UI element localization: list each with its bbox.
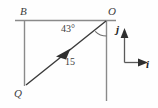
point-label-B: B: [20, 6, 27, 17]
basis-j-arrowhead: [121, 28, 129, 38]
point-label-Q: Q: [14, 88, 22, 99]
angle-arc: [95, 31, 106, 36]
point-label-O: O: [108, 6, 116, 17]
vector-diagram-figure: B O Q 43° 15 j i: [0, 0, 158, 108]
angle-label: 43°: [61, 24, 75, 34]
basis-label-i: i: [146, 59, 149, 70]
basis-label-j: j: [116, 24, 119, 35]
vector-magnitude-label: 15: [65, 57, 75, 67]
